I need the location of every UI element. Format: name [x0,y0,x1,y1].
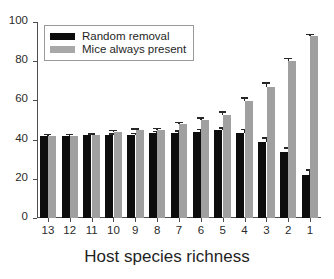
legend-label: Random removal [82,30,170,43]
y-tick-label: 20 [15,171,28,183]
bar-random-removal [302,175,310,218]
legend-item: Random removal [50,30,186,43]
error-bar [200,117,201,120]
bar-random-removal [40,136,48,218]
y-tick-label: 40 [15,132,28,144]
error-bar [178,122,179,125]
bar-group [258,22,275,218]
x-tick-mark [201,218,202,222]
bar-mice-always-present [223,115,231,218]
bar-random-removal [258,142,266,218]
bar-random-removal [62,136,70,218]
x-axis: 13121110987654321 [37,218,321,242]
bar-mice-always-present [48,136,56,218]
x-tick-label: 9 [125,224,145,236]
bar-group [214,22,231,218]
error-bar [266,82,267,86]
error-bar [156,128,157,130]
bar-random-removal [171,133,179,218]
bar-random-removal [214,130,222,218]
legend-item: Mice always present [50,43,186,56]
x-tick-mark [310,218,311,222]
x-axis-title: Host species richness [0,247,334,267]
bar-mice-always-present [245,101,253,218]
x-tick-mark [92,218,93,222]
x-tick-label: 4 [235,224,255,236]
error-bar [309,34,310,36]
bar-random-removal [193,132,201,218]
bar-mice-always-present [70,136,78,218]
x-tick-mark [70,218,71,222]
bar-mice-always-present [114,132,122,218]
bar-random-removal [105,135,113,218]
x-tick-mark [135,218,136,222]
error-bar [135,128,136,130]
y-tick-label: 0 [22,210,28,222]
bar-random-removal [280,152,288,218]
x-tick-label: 6 [191,224,211,236]
error-bar [47,134,48,136]
bar-group [236,22,253,218]
bar-group [302,22,319,218]
bar-mice-always-present [201,120,209,218]
legend-swatch-gray [50,46,75,53]
chart-legend: Random removalMice always present [44,25,194,61]
y-tick-label: 80 [15,53,28,65]
error-bar [91,133,92,135]
bar-mice-always-present [157,130,165,218]
error-bar [69,134,70,136]
x-tick-label: 2 [278,224,298,236]
bar-mice-always-present [310,36,318,218]
bar-mice-always-present [179,124,187,218]
x-tick-mark [245,218,246,222]
x-tick-mark [157,218,158,222]
x-tick-mark [179,218,180,222]
x-tick-label: 8 [147,224,167,236]
x-tick-mark [223,218,224,222]
y-tick-label: 100 [9,14,28,26]
bar-random-removal [149,133,157,218]
x-tick-label: 12 [60,224,80,236]
bar-group [280,22,297,218]
error-bar [113,130,114,132]
bar-random-removal [236,133,244,218]
bar-mice-always-present [288,61,296,218]
bar-chart-figure: 020406080100 13121110987654321 Host spec… [0,0,334,279]
bar-mice-always-present [92,135,100,218]
x-tick-label: 1 [300,224,320,236]
error-bar [222,111,223,114]
y-tick-label: 60 [15,92,28,104]
bar-mice-always-present [267,87,275,218]
x-tick-mark [266,218,267,222]
bar-random-removal [127,135,135,218]
x-tick-mark [113,218,114,222]
x-tick-mark [288,218,289,222]
legend-swatch-black [50,33,75,40]
x-tick-label: 3 [256,224,276,236]
x-tick-label: 10 [103,224,123,236]
legend-label: Mice always present [82,43,186,56]
error-bar [244,97,245,101]
x-tick-label: 11 [82,224,102,236]
x-tick-mark [48,218,49,222]
bar-mice-always-present [136,130,144,218]
x-tick-label: 13 [38,224,58,236]
x-tick-label: 5 [213,224,233,236]
x-tick-label: 7 [169,224,189,236]
error-bar [288,58,289,62]
bar-group [193,22,210,218]
bar-random-removal [83,135,91,218]
